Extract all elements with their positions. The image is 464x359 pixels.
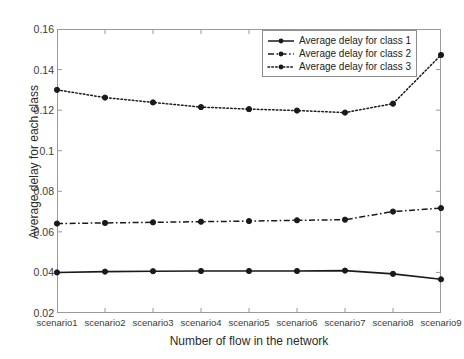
series-1 [54, 268, 443, 282]
legend-item-1: Average delay for class 1 [267, 34, 411, 47]
x-tick-label: scenario8 [372, 317, 413, 328]
data-point-marker [150, 269, 155, 274]
data-point-marker [54, 270, 59, 275]
data-point-marker [246, 107, 251, 112]
data-point-marker [390, 209, 395, 214]
data-point-marker [102, 95, 107, 100]
x-tick-label: scenario5 [228, 317, 269, 328]
legend-item-2: Average delay for class 2 [267, 47, 411, 60]
data-point-marker [294, 108, 299, 113]
x-tick-label: scenario9 [420, 317, 461, 328]
data-point-marker [54, 221, 59, 226]
y-axis-title: Average delay for each class [27, 42, 41, 282]
data-point-marker [246, 219, 251, 224]
chart-figure: 0.020.040.060.080.10.120.140.16 scenario… [0, 0, 464, 359]
x-tick-label: scenario1 [36, 317, 77, 328]
y-axis-ticks [57, 70, 441, 273]
data-point-marker [102, 269, 107, 274]
data-series-layer [54, 52, 443, 282]
data-point-marker [198, 105, 203, 110]
x-tick-label: scenario4 [180, 317, 221, 328]
data-point-marker [102, 220, 107, 225]
legend-label: Average delay for class 2 [299, 48, 411, 60]
data-point-marker [198, 219, 203, 224]
x-tick-label: scenario7 [324, 317, 365, 328]
series-2 [54, 206, 443, 227]
data-point-marker [390, 101, 395, 106]
x-tick-label: scenario2 [84, 317, 125, 328]
chart-legend: Average delay for class 1Average delay f… [262, 30, 417, 77]
data-point-marker [198, 268, 203, 273]
legend-swatch-dash-dot [267, 48, 295, 60]
data-point-marker [150, 220, 155, 225]
data-point-marker [438, 206, 443, 211]
data-point-marker [294, 268, 299, 273]
data-point-marker [342, 217, 347, 222]
legend-label: Average delay for class 1 [299, 35, 411, 47]
data-point-marker [150, 100, 155, 105]
data-point-marker [294, 218, 299, 223]
x-axis-title: Number of flow in the network [57, 334, 441, 348]
legend-item-3: Average delay for class 3 [267, 60, 411, 73]
legend-swatch-solid [267, 35, 295, 47]
data-point-marker [54, 87, 59, 92]
x-tick-label: scenario6 [276, 317, 317, 328]
data-point-marker [438, 277, 443, 282]
x-tick-label: scenario3 [132, 317, 173, 328]
legend-swatch-dotted [267, 61, 295, 73]
data-point-marker [438, 52, 443, 57]
data-point-marker [246, 268, 251, 273]
data-point-marker [342, 110, 347, 115]
data-point-marker [342, 268, 347, 273]
legend-label: Average delay for class 3 [299, 61, 411, 73]
data-point-marker [390, 271, 395, 276]
